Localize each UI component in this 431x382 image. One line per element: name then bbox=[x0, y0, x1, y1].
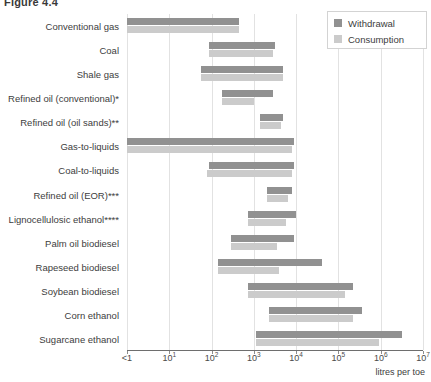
x-tick-label: 101 bbox=[162, 353, 176, 363]
bar-withdrawal[interactable] bbox=[209, 162, 294, 169]
bar-consumption[interactable] bbox=[207, 170, 292, 177]
x-axis-line bbox=[127, 350, 423, 351]
gridline bbox=[127, 14, 128, 350]
category-label: Lignocellulosic ethanol**** bbox=[9, 213, 119, 224]
bar-consumption[interactable] bbox=[127, 146, 292, 153]
legend-label-withdrawal: Withdrawal bbox=[348, 18, 395, 29]
gridline bbox=[254, 14, 255, 350]
category-label: Coal-to-liquids bbox=[58, 165, 119, 176]
category-label: Rapeseed biodiesel bbox=[36, 261, 119, 272]
bar-consumption[interactable] bbox=[127, 26, 239, 33]
legend-item-consumption[interactable]: Consumption bbox=[334, 32, 420, 46]
gridline bbox=[381, 14, 382, 350]
category-label: Palm oil biodiesel bbox=[45, 237, 119, 248]
category-axis-labels: Conventional gasCoalShale gasRefined oil… bbox=[0, 14, 123, 351]
bar-consumption[interactable] bbox=[260, 122, 281, 129]
bar-withdrawal[interactable] bbox=[267, 187, 292, 194]
x-tick-label: 106 bbox=[374, 353, 388, 363]
x-tick-label: 105 bbox=[332, 353, 346, 363]
category-label: Refined oil (conventional)* bbox=[8, 93, 119, 104]
x-tick-label: 107 bbox=[416, 353, 430, 363]
bar-consumption[interactable] bbox=[231, 243, 278, 250]
category-label: Refined oil (oil sands)** bbox=[20, 117, 119, 128]
x-tick-label: 104 bbox=[289, 353, 303, 363]
bar-consumption[interactable] bbox=[267, 195, 288, 202]
bar-consumption[interactable] bbox=[209, 50, 272, 57]
x-tick-label: 103 bbox=[247, 353, 261, 363]
bar-withdrawal[interactable] bbox=[209, 42, 275, 49]
gridline bbox=[338, 14, 339, 350]
bar-withdrawal[interactable] bbox=[248, 283, 354, 290]
bar-consumption[interactable] bbox=[269, 315, 354, 322]
legend-swatch-icon-consumption bbox=[334, 35, 342, 43]
bar-withdrawal[interactable] bbox=[231, 235, 294, 242]
bar-consumption[interactable] bbox=[256, 339, 379, 346]
bar-withdrawal[interactable] bbox=[256, 331, 402, 338]
bar-consumption[interactable] bbox=[248, 291, 345, 298]
category-label: Shale gas bbox=[77, 69, 119, 80]
category-label: Refined oil (EOR)*** bbox=[33, 189, 119, 200]
bar-consumption[interactable] bbox=[222, 98, 254, 105]
bar-withdrawal[interactable] bbox=[260, 114, 283, 121]
gridline bbox=[296, 14, 297, 350]
legend-label-consumption: Consumption bbox=[348, 34, 404, 45]
legend-swatch-icon-withdrawal bbox=[334, 19, 342, 27]
bar-withdrawal[interactable] bbox=[248, 211, 297, 218]
gridline bbox=[423, 14, 424, 350]
gridline bbox=[212, 14, 213, 350]
bar-withdrawal[interactable] bbox=[127, 138, 294, 145]
x-axis-tick-labels: <1101102103104105106107 bbox=[127, 353, 423, 367]
bar-withdrawal[interactable] bbox=[127, 18, 239, 25]
category-label: Gas-to-liquids bbox=[60, 141, 119, 152]
bar-consumption[interactable] bbox=[218, 267, 279, 274]
chart-plot-area bbox=[127, 14, 423, 351]
gridline bbox=[169, 14, 170, 350]
x-tick-label: <1 bbox=[122, 353, 132, 363]
legend-item-withdrawal[interactable]: Withdrawal bbox=[334, 16, 420, 30]
bar-consumption[interactable] bbox=[201, 74, 283, 81]
bar-withdrawal[interactable] bbox=[269, 307, 362, 314]
bar-withdrawal[interactable] bbox=[218, 259, 322, 266]
category-label: Corn ethanol bbox=[65, 309, 119, 320]
chart-legend: Withdrawal Consumption bbox=[327, 11, 427, 49]
category-label: Conventional gas bbox=[46, 21, 119, 32]
bar-withdrawal[interactable] bbox=[201, 66, 283, 73]
category-label: Sugarcane ethanol bbox=[39, 333, 119, 344]
category-label: Coal bbox=[99, 45, 119, 56]
x-axis-title: litres per toe bbox=[375, 367, 425, 377]
page-title: Figure 4.4 bbox=[4, 0, 58, 8]
bar-consumption[interactable] bbox=[248, 219, 286, 226]
category-label: Soybean biodiesel bbox=[41, 285, 119, 296]
bar-withdrawal[interactable] bbox=[222, 90, 273, 97]
x-tick-label: 102 bbox=[205, 353, 219, 363]
